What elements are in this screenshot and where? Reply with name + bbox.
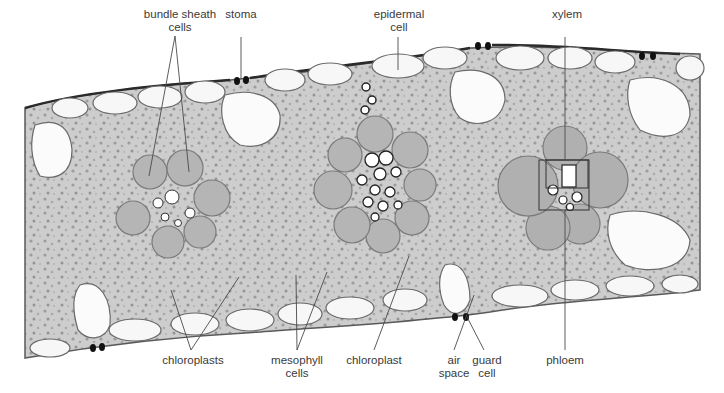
label-phloem: phloem — [546, 354, 584, 367]
label-mesophyll-cells: mesophyll cells — [271, 354, 323, 380]
label-chloroplast: chloroplast — [346, 354, 402, 367]
label-guard-cell: guard cell — [472, 354, 501, 380]
label-bundle-sheath-cells: bundle sheath cells — [144, 8, 216, 34]
leaf-cross-section-figure: bundle sheath cellsstomaepidermal cellxy… — [0, 0, 724, 393]
label-stoma: stoma — [225, 8, 256, 21]
label-chloroplasts: chloroplasts — [162, 354, 223, 367]
label-xylem: xylem — [552, 8, 582, 21]
micrograph — [0, 0, 724, 393]
label-epidermal-cell: epidermal cell — [374, 8, 425, 34]
leader-line-guard-cell — [466, 315, 484, 350]
label-air-space: air space — [439, 354, 470, 380]
